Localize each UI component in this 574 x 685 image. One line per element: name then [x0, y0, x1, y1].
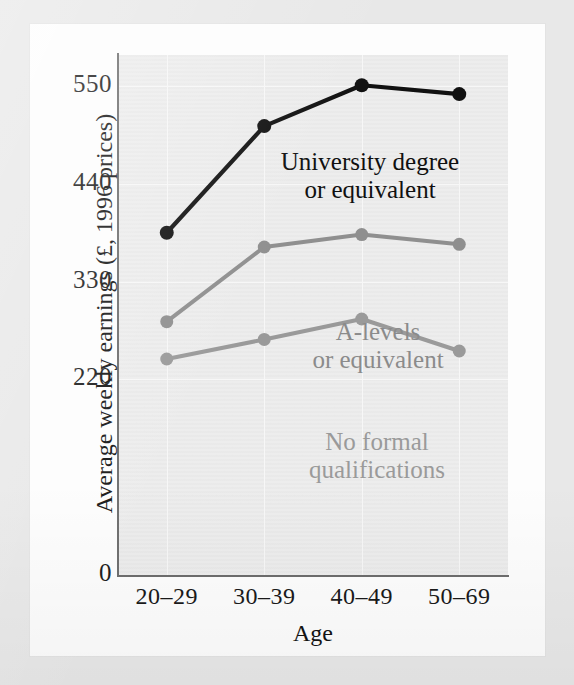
series-label-no-formal-qualifications: No formal qualifications	[272, 428, 482, 484]
series-label-university-degree-line1: University degree	[281, 148, 459, 175]
x-axis-title: Age	[118, 620, 508, 647]
series-label-university-degree-line2: or equivalent	[245, 176, 495, 204]
line-chart: 0220330440550 20–2930–3940–4950–69 Avera…	[0, 0, 574, 685]
data-point-marker	[258, 333, 271, 346]
series-label-no-formal-qualifications-line2: qualifications	[272, 456, 482, 484]
series-label-no-formal-qualifications-line1: No formal	[325, 428, 428, 455]
y-axis-title: Average weekly earnings (£, 1996 prices)	[91, 79, 118, 549]
series-2	[160, 228, 466, 328]
series-label-a-levels-line2: or equivalent	[278, 346, 478, 374]
data-point-marker	[355, 228, 368, 241]
data-point-marker	[160, 226, 174, 240]
series-label-a-levels: A-levels or equivalent	[278, 318, 478, 374]
y-axis-title-container: Average weekly earnings (£, 1996 prices)	[56, 0, 86, 685]
data-point-marker	[355, 78, 369, 92]
data-point-marker	[160, 353, 173, 366]
data-point-marker	[257, 119, 271, 133]
series-plot	[118, 55, 508, 575]
x-axis-tick-label: 50–69	[389, 583, 529, 610]
data-point-marker	[452, 87, 466, 101]
data-point-marker	[453, 238, 466, 251]
data-point-marker	[258, 241, 271, 254]
series-line	[167, 235, 460, 322]
series-label-a-levels-line1: A-levels	[336, 318, 421, 345]
x-axis-line	[117, 575, 509, 577]
figure-outer-frame: 0220330440550 20–2930–3940–4950–69 Avera…	[0, 0, 574, 685]
series-label-university-degree: University degree or equivalent	[245, 148, 495, 204]
data-point-marker	[160, 315, 173, 328]
